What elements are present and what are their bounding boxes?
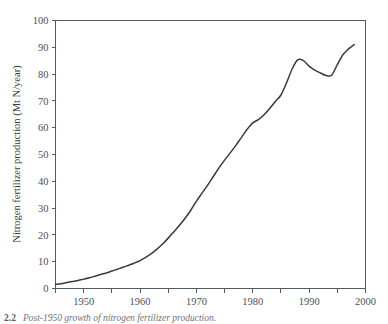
y-tick-label: 0	[43, 283, 48, 294]
x-tick-label: 1960	[130, 296, 151, 307]
line-chart-svg: 0102030405060708090100 19501960197019801…	[0, 0, 388, 310]
chart-plot-area: 0102030405060708090100 19501960197019801…	[0, 0, 388, 310]
x-axis: 195019601970198019902000	[56, 289, 377, 307]
y-tick-label: 10	[38, 256, 49, 267]
figure-container: 0102030405060708090100 19501960197019801…	[0, 0, 388, 324]
y-tick-label: 80	[38, 69, 49, 80]
y-tick-label: 60	[38, 122, 49, 133]
y-tick-label: 40	[38, 176, 49, 187]
x-tick-label: 2000	[355, 296, 376, 307]
x-tick-label: 1980	[242, 296, 263, 307]
y-tick-label: 50	[38, 149, 49, 160]
y-tick-label: 90	[38, 42, 49, 53]
y-tick-label: 30	[38, 203, 49, 214]
figure-caption-text: Post-1950 growth of nitrogen fertilizer …	[23, 313, 216, 323]
x-tick-label: 1990	[299, 296, 320, 307]
y-axis-title: Nitrogen fertilizer production (Mt N/yea…	[11, 65, 23, 243]
y-tick-label: 20	[38, 230, 49, 241]
y-axis: 0102030405060708090100	[33, 15, 56, 294]
plot-frame	[56, 21, 366, 289]
y-tick-label: 70	[38, 96, 49, 107]
x-tick-label: 1950	[73, 296, 94, 307]
figure-number: 2.2	[4, 313, 16, 323]
x-tick-label: 1970	[186, 296, 207, 307]
series-line	[56, 45, 355, 285]
y-tick-label: 100	[33, 15, 49, 26]
data-series-group	[56, 45, 355, 285]
figure-caption: 2.2Post-1950 growth of nitrogen fertiliz…	[4, 313, 388, 324]
